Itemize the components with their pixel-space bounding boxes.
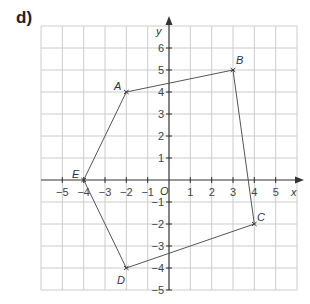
vertex-label-e: E (72, 168, 80, 180)
y-axis-arrow-icon (166, 16, 173, 25)
coordinate-grid: −5 −4 −3 −2 −1 1 2 3 4 5 6 5 4 3 2 1 −1 … (0, 0, 310, 304)
y-tick-label: −3 (151, 240, 164, 252)
x-tick-label: 2 (209, 186, 215, 198)
y-tick-labels: 6 5 4 3 2 1 −1 −2 −3 −4 −5 (151, 42, 164, 296)
y-tick-label: 3 (158, 108, 164, 120)
x-tick-label: 3 (230, 186, 236, 198)
vertex-label-b: B (236, 54, 243, 66)
y-tick-label: 4 (158, 86, 164, 98)
x-axis-label: x (290, 186, 297, 198)
y-tick-label: 6 (158, 42, 164, 54)
y-tick-label: −5 (151, 284, 164, 296)
x-tick-label: −4 (77, 186, 90, 198)
y-tick-label: −4 (151, 262, 164, 274)
x-tick-label: −3 (99, 186, 112, 198)
y-tick-label: 5 (158, 64, 164, 76)
x-tick-label: 1 (187, 186, 193, 198)
axes (41, 22, 298, 290)
x-axis-arrow-icon (295, 177, 304, 184)
x-tick-label: −2 (120, 186, 133, 198)
vertex-label-c: C (257, 211, 265, 223)
y-tick-label: 1 (158, 152, 164, 164)
origin-label: O (160, 185, 169, 197)
x-tick-label: 5 (273, 186, 279, 198)
x-tick-label: 4 (251, 186, 257, 198)
y-tick-label: −2 (151, 218, 164, 230)
x-tick-label: −5 (56, 186, 69, 198)
y-tick-label: 2 (158, 130, 164, 142)
y-axis-label: y (155, 25, 163, 37)
y-tick-label: −1 (151, 196, 164, 208)
vertex-label-d: D (117, 274, 125, 286)
vertex-label-a: A (113, 80, 121, 92)
